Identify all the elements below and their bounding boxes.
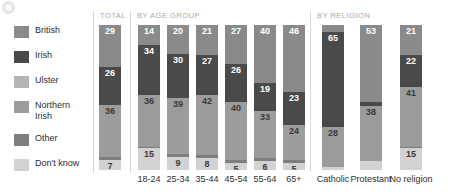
legend-swatch-icon [14, 51, 29, 63]
bar-segment-value: 5 [291, 163, 296, 170]
legend-item-label: Other [35, 133, 58, 144]
bar-segment-british[interactable]: 46 [283, 25, 305, 92]
bar-segment-value: 19 [260, 83, 270, 95]
bar-segment-british[interactable]: 27 [225, 25, 247, 64]
bar-segment-irish[interactable]: 22 [400, 55, 422, 87]
bar-segment-value: 20 [173, 25, 183, 37]
bar-segment-don-t-know[interactable]: 2 [322, 167, 344, 170]
bar-segment-don-t-know[interactable]: 15 [400, 148, 422, 170]
bar-segment-irish[interactable]: 27 [196, 55, 218, 94]
legend-item-british[interactable]: British [14, 25, 94, 45]
group-header-age: BY AGE GROUP [137, 11, 200, 20]
bar-segment-value: 9 [175, 157, 180, 169]
legend-item-label: British [35, 25, 60, 36]
bar-segment-value: 39 [173, 98, 183, 110]
bar-segment-irish[interactable]: 19 [254, 83, 276, 111]
bar-segment-irish[interactable]: 34 [138, 45, 160, 94]
bar-segment-british[interactable]: 14 [138, 25, 160, 45]
group-header-religion: BY RELIGION [317, 11, 370, 20]
bar-segment-value: 28 [328, 127, 338, 139]
stacked-bar-protestant[interactable]: 533386 [360, 25, 382, 170]
bar-segment-irish[interactable]: 26 [225, 64, 247, 102]
stacked-bar-age_45_54[interactable]: 27264025 [225, 25, 247, 170]
bar-segment-northern-irish[interactable]: 24 [283, 125, 305, 160]
bar-segment-value: 40 [260, 25, 270, 37]
bar-segment-value: 6 [262, 161, 267, 170]
bar-segment-irish[interactable]: 26 [99, 67, 121, 105]
legend-swatch-icon [14, 134, 29, 146]
bar-segment-value: 27 [202, 55, 212, 67]
stacked-bar-age_55_64[interactable]: 40193326 [254, 25, 276, 170]
bar-segment-irish[interactable]: 23 [283, 92, 305, 125]
stacked-bar-age_35_44[interactable]: 21274228 [196, 25, 218, 170]
bar-segment-northern-irish[interactable]: 42 [196, 95, 218, 156]
legend-item-other[interactable]: Other [14, 133, 94, 153]
bar-segment-value: 46 [289, 25, 299, 37]
bar-segment-british[interactable]: 21 [400, 25, 422, 55]
bar-segment-british[interactable]: 53 [360, 25, 382, 102]
legend-item-irish[interactable]: Irish [14, 50, 94, 70]
stacked-bar-age_65_plus[interactable]: 46232425 [283, 25, 305, 170]
bar-segment-value: 41 [406, 87, 416, 99]
bar-segment-british[interactable]: 29 [99, 25, 121, 67]
bar-segment-don-t-know[interactable]: 5 [225, 163, 247, 170]
separator-total-right [130, 12, 131, 172]
x-axis-label-no_religion: No religion [380, 174, 442, 184]
bar-segment-value: 53 [366, 25, 376, 37]
bar-segment-value: 14 [144, 25, 154, 37]
bar-segment-british[interactable]: 20 [167, 25, 189, 54]
legend-swatch-icon [14, 26, 29, 38]
bar-segment-northern-irish[interactable]: 39 [167, 98, 189, 155]
bar-segment-don-t-know[interactable]: 8 [196, 158, 218, 170]
bar-segment-value: 34 [144, 45, 154, 57]
stacked-bar-total[interactable]: 29263627 [99, 25, 121, 170]
bar-segment-northern-irish[interactable]: 33 [254, 111, 276, 159]
bar-segment-northern-irish[interactable]: 38 [360, 106, 382, 161]
bar-segment-value: 21 [406, 25, 416, 37]
bar-segment-value: 26 [231, 64, 241, 76]
bar-segment-don-t-know[interactable]: 5 [283, 163, 305, 170]
bar-segment-don-t-know[interactable]: 7 [99, 160, 121, 170]
stacked-bar-age_25_34[interactable]: 20303929 [167, 25, 189, 170]
bar-segment-value: 36 [105, 105, 115, 117]
legend-item-label: Don't know [35, 158, 79, 169]
bar-segment-don-t-know[interactable]: 9 [167, 157, 189, 170]
bar-segment-value: 30 [173, 54, 183, 66]
stacked-bar-catholic[interactable]: 565282 [322, 25, 344, 170]
bar-segment-value: 8 [204, 158, 209, 170]
bar-segment-value: 65 [328, 32, 338, 44]
bar-segment-northern-irish[interactable]: 40 [225, 102, 247, 160]
bar-segment-value: 36 [144, 95, 154, 107]
bar-segment-northern-irish[interactable]: 41 [400, 87, 422, 146]
bar-segment-british[interactable]: 40 [254, 25, 276, 83]
legend-item-label: Northern Irish [35, 100, 70, 122]
bar-segment-value: 24 [289, 125, 299, 137]
bar-segment-don-t-know[interactable]: 15 [138, 148, 160, 170]
legend-item-don-t-know[interactable]: Don't know [14, 158, 94, 178]
bar-segment-northern-irish[interactable]: 36 [99, 105, 121, 157]
legend-item-ulster[interactable]: Ulster [14, 75, 94, 95]
bar-segment-value: 15 [406, 148, 416, 160]
bar-segment-value: 23 [289, 92, 299, 104]
bar-segment-value: 40 [231, 102, 241, 114]
bar-segment-northern-irish[interactable]: 28 [322, 127, 344, 168]
legend-item-label: Ulster [35, 75, 59, 86]
bar-segment-don-t-know[interactable]: 6 [360, 161, 382, 170]
bar-segment-value: 7 [107, 160, 112, 170]
bar-segment-irish[interactable]: 30 [167, 54, 189, 98]
bar-segment-value: 22 [406, 55, 416, 67]
legend-swatch-icon [14, 159, 29, 171]
legend-item-label: Irish [35, 50, 52, 61]
bar-segment-irish[interactable]: 65 [322, 32, 344, 126]
bar-segment-don-t-know[interactable]: 6 [254, 161, 276, 170]
stacked-bar-no_religion[interactable]: 212241115 [400, 25, 422, 170]
bar-segment-value: 29 [105, 25, 115, 37]
legend-item-northern-irish[interactable]: Northern Irish [14, 100, 94, 128]
separator-religion-left [310, 12, 311, 172]
bar-segment-value: 42 [202, 95, 212, 107]
stacked-bar-age_18_24[interactable]: 143436115 [138, 25, 160, 170]
bar-segment-northern-irish[interactable]: 36 [138, 95, 160, 147]
bar-segment-british[interactable]: 21 [196, 25, 218, 55]
legend-swatch-icon [14, 76, 29, 88]
bar-segment-british[interactable]: 5 [322, 25, 344, 32]
